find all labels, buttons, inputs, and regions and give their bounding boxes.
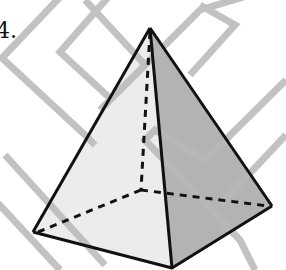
pyramid-diagram: [0, 0, 286, 270]
